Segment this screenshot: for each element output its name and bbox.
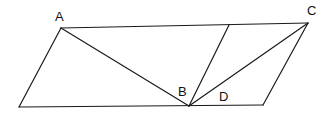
segments-group (19, 23, 308, 107)
geometry-diagram: A C B D (0, 0, 330, 117)
segment-bl-a (19, 28, 61, 107)
labels-group: A C B D (55, 3, 316, 104)
diagram-canvas: A C B D (0, 0, 330, 117)
label-c: C (307, 3, 316, 18)
segment-a-b (61, 28, 189, 106)
label-a: A (55, 9, 64, 24)
label-b: B (178, 84, 187, 99)
segment-b-c (189, 23, 308, 106)
segment-c-br (263, 23, 308, 105)
segment-a-c (61, 23, 308, 28)
segment-bl-br (19, 105, 263, 107)
label-d: D (219, 89, 228, 104)
